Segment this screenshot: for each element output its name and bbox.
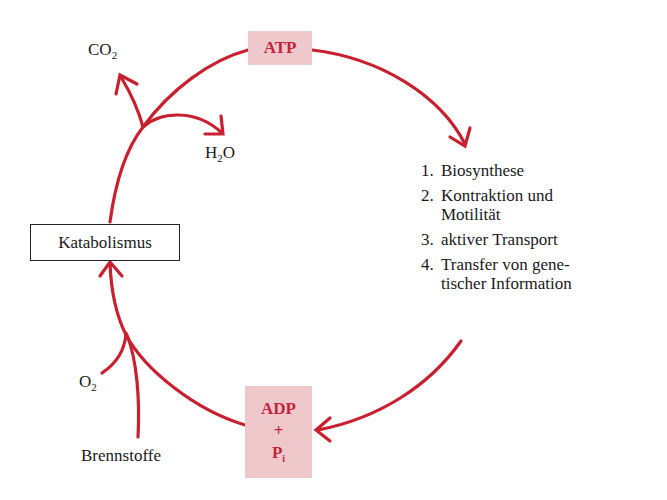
- h2o-label: H2O: [205, 143, 235, 163]
- o2-label: O2: [79, 372, 97, 392]
- arrow-to-co2: [121, 77, 143, 127]
- co2-label: CO2: [88, 40, 117, 60]
- katabolismus-label: Katabolismus: [58, 233, 152, 253]
- arrow-o2-branch: [102, 333, 126, 373]
- list-item: 2.Kontraktion und Motilität: [421, 186, 572, 224]
- plus-sign: +: [245, 420, 312, 442]
- list-item: 3.aktiver Transport: [421, 230, 572, 249]
- atp-label: ATP: [264, 38, 297, 57]
- list-item: 4.Transfer von gene- tischer Information: [421, 255, 572, 293]
- pi-label: Pi: [245, 442, 312, 470]
- arrow-uses-to-adp: [318, 341, 461, 430]
- arrow-katabolismus-up: [110, 127, 143, 222]
- adp-pi-box: ADP + Pi: [245, 386, 312, 478]
- list-item: 1.Biosynthese: [421, 161, 572, 180]
- katabolismus-box: Katabolismus: [30, 224, 180, 261]
- brennstoffe-label: Brennstoffe: [81, 446, 161, 466]
- atp-uses-list: 1.Biosynthese 2.Kontraktion und Motilitä…: [421, 161, 572, 299]
- adp-label: ADP: [245, 398, 312, 420]
- arrow-atp-to-uses: [312, 50, 465, 144]
- arrow-to-atp: [143, 50, 248, 127]
- atp-box: ATP: [248, 31, 312, 65]
- arrow-to-h2o: [143, 115, 222, 133]
